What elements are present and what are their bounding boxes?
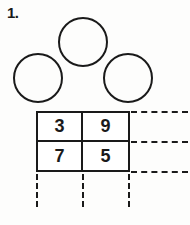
- dashed-guide-horizontal-middle: [131, 141, 188, 143]
- dashed-guide-horizontal-top: [131, 111, 188, 113]
- worksheet-problem: 1. 3 9 7 5: [0, 0, 190, 225]
- answer-circle-top[interactable]: [58, 17, 108, 67]
- answer-circle-left[interactable]: [13, 53, 63, 103]
- grid-cell-r0c1[interactable]: 9: [83, 113, 128, 142]
- answer-circle-right[interactable]: [103, 53, 153, 103]
- grid-cell-r0c0[interactable]: 3: [38, 113, 83, 142]
- dashed-guide-vertical-right: [128, 174, 130, 207]
- dashed-guide-horizontal-bottom: [131, 171, 188, 173]
- dashed-guide-vertical-left: [36, 174, 38, 207]
- problem-number: 1.: [7, 5, 19, 20]
- grid-cell-r1c1[interactable]: 5: [83, 142, 128, 171]
- grid-cell-r1c0[interactable]: 7: [38, 142, 83, 171]
- dashed-guide-vertical-middle: [82, 174, 84, 207]
- number-grid: 3 9 7 5: [36, 111, 130, 172]
